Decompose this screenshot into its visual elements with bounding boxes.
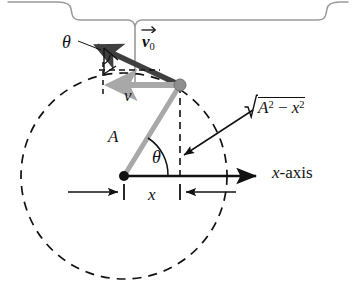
sqrt-x-exponent: 2 — [299, 99, 304, 110]
sqrt-A-exponent: 2 — [268, 99, 273, 110]
amplitude-A-label: A — [108, 128, 118, 145]
sqrt-expression-label: A2 − x2 — [258, 97, 305, 116]
radical-sign-icon — [244, 93, 258, 119]
sqrt-A: A — [258, 98, 268, 117]
speed-v-label: v — [124, 87, 132, 104]
particle-point — [174, 79, 186, 91]
diagram-canvas: θ v0 v A θ x x-axis A2 − x2 — [0, 0, 352, 301]
top-bracket — [8, 2, 348, 88]
sqrt-minus: − — [278, 98, 288, 117]
theta-top-label: θ — [62, 33, 71, 51]
sqrt-leader-arrow — [184, 110, 253, 155]
v0-letter: v — [142, 32, 150, 51]
v0-vector-label: v0 — [142, 33, 155, 52]
x-dimension-label: x — [148, 186, 156, 203]
physics-diagram-svg — [0, 0, 352, 301]
vector-overarrow-icon — [141, 24, 156, 33]
x-axis-symbol: x — [272, 163, 280, 182]
x-axis-suffix: -axis — [280, 163, 313, 182]
v0-subscript: 0 — [150, 41, 155, 52]
x-axis-label: x-axis — [272, 164, 313, 181]
origin-point — [119, 171, 129, 181]
v0-symbol: v — [142, 32, 150, 51]
theta-origin-label: θ — [152, 148, 161, 166]
